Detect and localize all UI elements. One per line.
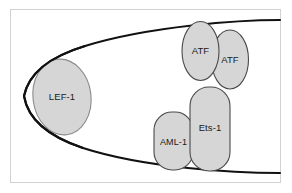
atf-left-label: ATF [192,45,210,56]
protein-aml-1[interactable]: AML-1 [154,112,193,170]
aml-1-label: AML-1 [160,137,187,147]
lef-1-label: LEF-1 [49,91,75,102]
enhanceosome-diagram: AML-1 Ets-1 ATF ATF LEF-1 [0,0,292,193]
ets-1-label: Ets-1 [199,122,222,133]
protein-lef-1[interactable]: LEF-1 [29,56,96,139]
figure-root: AML-1 Ets-1 ATF ATF LEF-1 [0,0,292,193]
protein-ets-1[interactable]: Ets-1 [190,87,230,171]
protein-atf-left[interactable]: ATF [182,22,219,81]
atf-right-label: ATF [221,54,239,65]
